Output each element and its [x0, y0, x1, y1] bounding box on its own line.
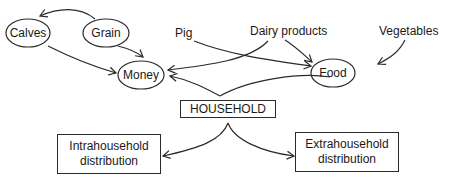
- money-node: Money: [118, 68, 164, 82]
- vegetables-label: Vegetables: [379, 25, 438, 37]
- pig-label: Pig: [175, 27, 192, 39]
- household-label: HOUSEHOLD: [190, 102, 266, 117]
- dairy-products-label: Dairy products: [250, 25, 327, 37]
- edge-calves-money: [48, 46, 116, 73]
- edge-grain-calves: [40, 10, 95, 19]
- calves-node: Calves: [6, 26, 50, 40]
- edge-pig-food: [194, 41, 311, 66]
- intra-label-line2: distribution: [80, 154, 138, 169]
- intra-label-line1: Intrahousehold: [69, 139, 148, 154]
- edge-dairy-money: [168, 41, 268, 70]
- edge-vegetables-food: [378, 40, 405, 64]
- extra-label-line2: distribution: [318, 152, 376, 167]
- edge-household-intra: [163, 123, 228, 156]
- extrahousehold-distribution-node: Extrahousehold distribution: [295, 132, 399, 172]
- household-node: HOUSEHOLD: [180, 100, 276, 118]
- grain-node: Grain: [83, 26, 129, 40]
- extra-label-line1: Extrahousehold: [305, 137, 388, 152]
- edge-household-extra: [228, 123, 294, 156]
- food-node: Food: [311, 66, 355, 80]
- edge-household-money: [170, 76, 220, 96]
- intrahousehold-distribution-node: Intrahousehold distribution: [57, 134, 161, 174]
- edge-dairy-food: [285, 40, 312, 62]
- edge-grain-money: [118, 46, 143, 57]
